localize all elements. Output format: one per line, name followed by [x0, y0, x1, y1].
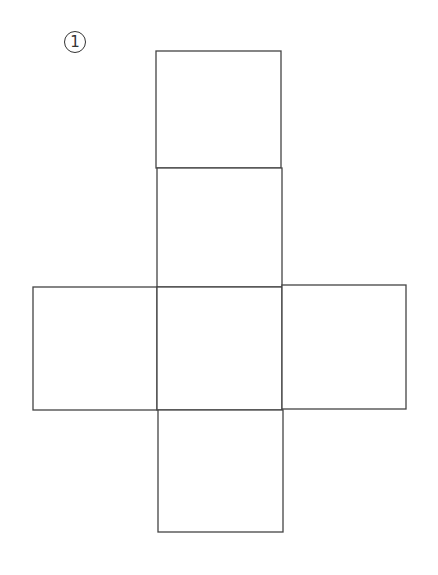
net-face-upper-middle	[157, 168, 282, 287]
net-face-bottom	[158, 410, 283, 532]
net-face-top	[156, 51, 281, 168]
net-face-right	[282, 285, 406, 409]
cube-net-diagram	[0, 0, 438, 575]
net-face-center	[157, 287, 282, 410]
net-face-left	[33, 287, 157, 410]
